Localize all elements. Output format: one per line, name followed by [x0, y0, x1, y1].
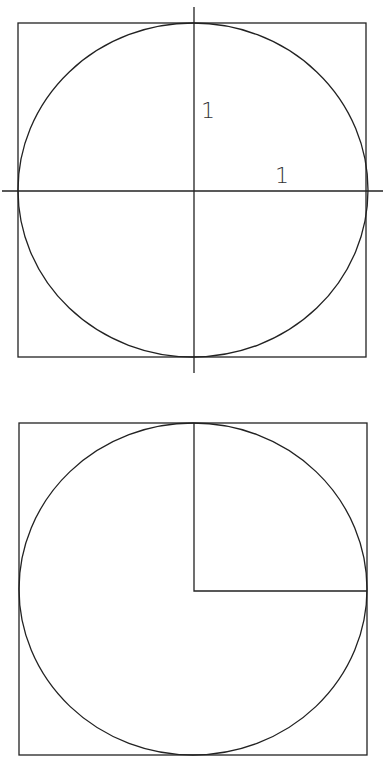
circle: [19, 423, 367, 755]
bounding-square: [19, 423, 367, 755]
bounding-square: [18, 23, 366, 357]
figure-circle-quarter-square: [19, 423, 367, 755]
figure-circle-axes: [2, 7, 383, 373]
label-horizontal-radius: 1: [275, 163, 289, 188]
label-vertical-radius: 1: [201, 98, 215, 123]
diagram-canvas: 1 1: [0, 0, 384, 780]
circle: [18, 23, 368, 357]
quarter-square: [194, 423, 367, 591]
